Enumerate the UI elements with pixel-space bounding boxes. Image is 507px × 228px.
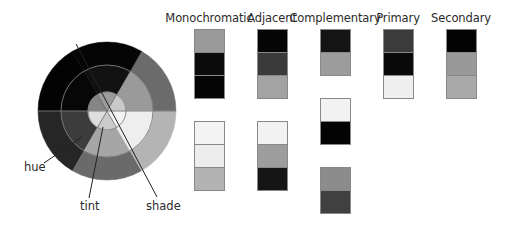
swatch-cell (258, 30, 287, 53)
color-wheel (0, 0, 200, 228)
swatch-cell (258, 76, 287, 98)
swatch-monochromatic-1 (194, 29, 225, 99)
swatch-complementary-2 (320, 98, 351, 145)
swatch-complementary-3 (320, 167, 351, 214)
swatch-secondary-1 (446, 29, 477, 99)
swatch-cell (321, 99, 350, 122)
swatch-monochromatic-2 (194, 121, 225, 191)
swatch-adjacent-1 (257, 29, 288, 99)
swatch-cell (447, 30, 476, 53)
scheme-label-secondary: Secondary (431, 11, 491, 25)
swatch-cell (321, 191, 350, 213)
swatch-adjacent-2 (257, 121, 288, 191)
callout-label-shade: shade (146, 199, 181, 213)
swatch-cell (258, 53, 287, 76)
swatch-cell (321, 53, 350, 75)
swatch-primary-1 (383, 29, 414, 99)
swatch-cell (195, 53, 224, 76)
swatch-cell (447, 76, 476, 98)
swatch-cell (384, 30, 413, 53)
swatch-cell (195, 168, 224, 190)
swatch-cell (195, 145, 224, 168)
swatch-cell (321, 122, 350, 144)
swatch-cell (258, 168, 287, 190)
swatch-cell (195, 30, 224, 53)
scheme-label-monochromatic: Monochromatic (165, 11, 252, 25)
swatch-cell (195, 122, 224, 145)
callout-label-tint: tint (80, 199, 100, 213)
scheme-label-primary: Primary (376, 11, 420, 25)
scheme-label-complementary: Complementary (289, 11, 380, 25)
swatch-cell (384, 53, 413, 76)
callout-label-hue: hue (24, 160, 46, 174)
swatch-complementary-1 (320, 29, 351, 76)
swatch-cell (447, 53, 476, 76)
swatch-cell (258, 145, 287, 168)
swatch-cell (195, 76, 224, 98)
swatch-cell (384, 76, 413, 98)
swatch-cell (321, 168, 350, 191)
swatch-cell (258, 122, 287, 145)
swatch-cell (321, 30, 350, 53)
